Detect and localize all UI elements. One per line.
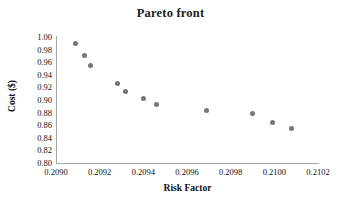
y-tick-label: 0.94 (22, 71, 52, 80)
y-tick-label: 0.84 (22, 134, 52, 143)
y-tick-label: 0.92 (22, 83, 52, 92)
x-axis-title: Risk Factor (56, 183, 319, 193)
data-point (82, 53, 87, 58)
y-tick-label: 0.98 (22, 45, 52, 54)
x-tick-label: 0.2096 (164, 168, 210, 177)
data-point (88, 63, 93, 68)
data-point (73, 41, 78, 46)
x-tick-label: 0.2098 (208, 168, 254, 177)
data-point (123, 89, 128, 94)
data-point (204, 108, 209, 113)
y-tick-label: 1.00 (22, 33, 52, 42)
data-point (115, 81, 120, 86)
y-tick-label: 0.82 (22, 146, 52, 155)
data-point (141, 96, 146, 101)
y-tick-label: 0.96 (22, 58, 52, 67)
x-tick-label: 0.2092 (77, 168, 123, 177)
x-tick-label: 0.2090 (33, 168, 79, 177)
plot-area (56, 37, 318, 163)
x-axis-line (56, 163, 319, 164)
data-point (270, 120, 275, 125)
y-tick-label: 0.90 (22, 96, 52, 105)
y-tick-label: 0.88 (22, 108, 52, 117)
y-axis-title: Cost ($) (7, 56, 17, 136)
x-tick-label: 0.2102 (295, 168, 341, 177)
data-point (154, 102, 159, 107)
data-point (289, 126, 294, 131)
chart-container: Pareto front 0.800.820.840.860.880.900.9… (0, 0, 341, 203)
x-tick-label: 0.2100 (251, 168, 297, 177)
y-tick-label: 0.86 (22, 121, 52, 130)
data-point (250, 111, 255, 116)
y-tick-label: 0.80 (22, 159, 52, 168)
x-tick-label: 0.2094 (120, 168, 166, 177)
